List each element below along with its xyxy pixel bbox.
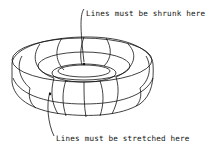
torus-diagram: Lines must be shrunk here Lines must be … — [0, 0, 213, 154]
mid-latitude — [38, 52, 130, 80]
inner-hole-back — [58, 65, 110, 77]
label-stretched: Lines must be stretched here — [56, 134, 190, 143]
leader-bottom — [48, 92, 54, 136]
label-shrunk: Lines must be shrunk here — [86, 9, 205, 18]
leader-top — [81, 9, 84, 62]
torus-drawing — [0, 0, 213, 154]
